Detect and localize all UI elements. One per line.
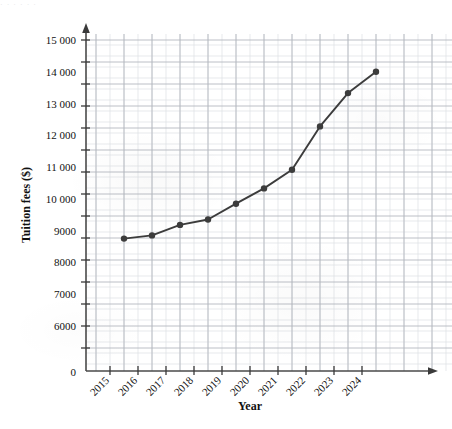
scan-top-artifact: · · · · · · (0, 0, 452, 12)
y-tick-label-8000b: 8000 (54, 256, 77, 268)
data-point-2024 (373, 69, 379, 75)
data-point-2017 (177, 222, 183, 228)
x-axis-arrow (428, 367, 438, 375)
y-tick-label-9000: 9000 (54, 225, 77, 237)
origin-label: 0 (71, 366, 77, 378)
x-tick-label-2020: 2020 (227, 374, 251, 398)
data-point-2020 (261, 185, 267, 191)
data-point-2021 (289, 167, 295, 173)
data-point-2023 (345, 90, 351, 96)
y-tick-label-12000: 12 000 (46, 129, 77, 141)
y-tick-labels-lower: 8000 7000 6000 (54, 256, 77, 332)
x-tick-label-2017: 2017 (143, 374, 167, 398)
grid-minor-vertical (96, 34, 446, 371)
data-point-2018 (205, 216, 211, 222)
y-tick-label-6000b: 6000 (54, 320, 77, 332)
grid-major-vertical (96, 34, 432, 371)
data-point-2016 (149, 232, 155, 238)
y-axis-arrow (82, 23, 90, 33)
x-axis-title: Year (238, 399, 263, 413)
x-tick-label-2016: 2016 (115, 374, 139, 398)
x-tick-label-2018: 2018 (171, 374, 195, 398)
tuition-fees-line-chart: · · · · · · (0, 0, 452, 429)
y-tick-labels: 15 000 14 000 13 000 12 000 11 000 10 00… (46, 34, 77, 237)
y-tick-label-10000: 10 000 (46, 193, 77, 205)
y-axis-title: Tuition fees ($) (19, 167, 33, 243)
chart-svg: 15 000 14 000 13 000 12 000 11 000 10 00… (0, 0, 452, 429)
x-tick-label-2023: 2023 (311, 374, 335, 398)
x-tick-label-2022: 2022 (283, 374, 307, 398)
data-point-2015 (121, 235, 127, 241)
grid-minor-horizontal (86, 45, 452, 364)
x-tick-labels: 2015 2016 2017 2018 2019 2020 2021 2022 … (87, 374, 363, 398)
data-point-2019 (233, 201, 239, 207)
x-tick-label-2021: 2021 (255, 374, 279, 398)
x-tick-label-2015: 2015 (87, 374, 111, 398)
y-tick-label-13000: 13 000 (46, 98, 77, 110)
x-tick-label-2024: 2024 (339, 374, 363, 398)
data-point-2022 (317, 123, 323, 129)
y-tick-label-15000: 15 000 (46, 34, 77, 46)
y-tick-label-11000: 11 000 (46, 161, 76, 173)
y-tick-label-7000b: 7000 (54, 288, 77, 300)
grid-major-horizontal (86, 40, 452, 348)
x-tick-label-2019: 2019 (199, 374, 223, 398)
y-tick-label-14000: 14 000 (46, 66, 77, 78)
